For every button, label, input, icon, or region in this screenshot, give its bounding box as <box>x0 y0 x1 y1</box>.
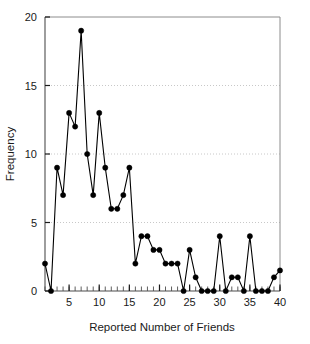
data-point <box>205 288 210 293</box>
data-point <box>235 275 240 280</box>
data-point <box>277 268 282 273</box>
x-tick-label-25: 25 <box>183 296 195 308</box>
data-point <box>109 206 114 211</box>
data-point <box>241 288 246 293</box>
data-point <box>103 165 108 170</box>
data-point <box>91 193 96 198</box>
x-tick-label-30: 30 <box>214 296 226 308</box>
data-point <box>169 261 174 266</box>
y-tick-label-0: 0 <box>31 285 37 297</box>
data-point <box>151 247 156 252</box>
x-tick-label-20: 20 <box>153 296 165 308</box>
data-point <box>85 151 90 156</box>
data-point <box>163 261 168 266</box>
data-point <box>223 288 228 293</box>
y-tick-label-10: 10 <box>25 148 37 160</box>
data-point <box>79 28 84 33</box>
data-point <box>187 247 192 252</box>
x-axis-title: Reported Number of Friends <box>89 321 235 333</box>
data-point <box>229 275 234 280</box>
y-axis-tick-labels: 05101520 <box>25 11 37 297</box>
y-axis-title: Frequency <box>4 127 16 182</box>
data-point <box>60 193 65 198</box>
data-point <box>271 275 276 280</box>
data-point <box>121 193 126 198</box>
data-point <box>175 261 180 266</box>
x-tick-label-5: 5 <box>66 296 72 308</box>
data-point <box>48 288 53 293</box>
data-point <box>181 288 186 293</box>
data-point <box>67 110 72 115</box>
x-tick-label-35: 35 <box>244 296 256 308</box>
data-point <box>54 165 59 170</box>
frequency-line-chart: 510152025303540 05101520 Reported Number… <box>0 0 310 344</box>
data-point <box>247 234 252 239</box>
x-tick-label-40: 40 <box>274 296 286 308</box>
data-point <box>253 288 258 293</box>
data-point <box>265 288 270 293</box>
data-point <box>97 110 102 115</box>
data-point <box>217 234 222 239</box>
data-point <box>193 275 198 280</box>
x-tick-label-10: 10 <box>93 296 105 308</box>
y-tick-label-20: 20 <box>25 11 37 23</box>
chart-canvas: 510152025303540 05101520 Reported Number… <box>0 0 310 344</box>
data-point <box>259 288 264 293</box>
data-point <box>127 165 132 170</box>
data-point <box>157 247 162 252</box>
x-axis-tick-labels: 510152025303540 <box>66 296 286 308</box>
data-point <box>133 261 138 266</box>
data-point <box>139 234 144 239</box>
y-tick-label-15: 15 <box>25 80 37 92</box>
data-point <box>73 124 78 129</box>
data-point <box>211 288 216 293</box>
data-point <box>199 288 204 293</box>
x-tick-label-15: 15 <box>123 296 135 308</box>
data-point <box>115 206 120 211</box>
data-point <box>42 261 47 266</box>
y-tick-label-5: 5 <box>31 217 37 229</box>
data-point <box>145 234 150 239</box>
